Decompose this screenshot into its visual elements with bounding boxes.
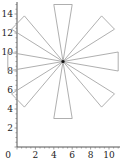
y-tick-label: 2 <box>7 123 13 133</box>
x-tick-label: 8 <box>88 150 94 160</box>
x-tick-label: 2 <box>33 150 39 160</box>
y-tick-label: 14 <box>2 9 14 19</box>
axes: 2468101214 0246810 <box>2 2 120 160</box>
spoke-top <box>54 5 72 62</box>
x-tick-label: 6 <box>69 150 75 160</box>
y-tick-label: 4 <box>7 104 13 114</box>
x-tick-label: 0 <box>5 150 11 160</box>
x-tick-label: 4 <box>51 150 57 160</box>
spoke-lower-left <box>12 62 64 108</box>
spoke-upper-right <box>63 16 115 62</box>
star-chart: 2468101214 0246810 <box>0 0 122 161</box>
x-ticks: 0246810 <box>5 147 118 160</box>
center-point <box>61 60 64 63</box>
spoke-lower-right <box>63 62 115 108</box>
spoke-right <box>63 52 118 71</box>
x-tick-label: 10 <box>103 150 115 160</box>
spoke-bottom <box>54 62 72 119</box>
spoke-upper-left <box>12 16 64 62</box>
